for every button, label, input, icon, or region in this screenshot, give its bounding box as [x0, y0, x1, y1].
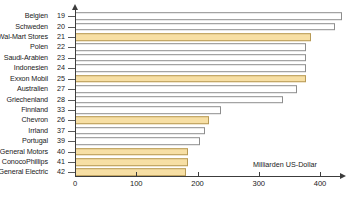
row-rank-number: 41: [52, 158, 65, 166]
x-axis-tick-label: 100: [116, 179, 156, 188]
row-rank-number: 33: [52, 106, 65, 114]
row-rank-number: 23: [52, 54, 65, 62]
value-bar: [75, 12, 342, 20]
x-axis-tick: [136, 172, 137, 177]
y-axis-tick: [68, 27, 75, 28]
row-category-label: Wal-Mart Stores: [0, 33, 48, 41]
row-rank-number: 21: [52, 33, 65, 41]
value-bar: [75, 117, 209, 125]
row-rank-number: 27: [52, 85, 65, 93]
chart-row: General Motors40: [0, 146, 354, 156]
value-bar: [75, 127, 205, 135]
row-category-label: Finnland: [21, 106, 48, 114]
y-axis-tick: [68, 120, 75, 121]
y-axis-tick: [68, 58, 75, 59]
x-axis-tick-label: 300: [239, 179, 279, 188]
value-bar: [75, 75, 306, 83]
chart-row: Saudi-Arabien23: [0, 53, 354, 63]
y-axis-line: [75, 8, 76, 176]
y-axis-tick: [68, 172, 75, 173]
x-axis-tick: [320, 172, 321, 177]
x-axis-tick-label: 0: [55, 179, 95, 188]
y-axis-tick: [68, 110, 75, 111]
chart-row: Polen22: [0, 42, 354, 52]
chart-row: Australien27: [0, 84, 354, 94]
chart-row: Finnland33: [0, 105, 354, 115]
y-axis-tick: [68, 89, 75, 90]
row-category-label: General Motors: [0, 148, 48, 156]
row-category-label: Exxon Mobil: [10, 75, 48, 83]
row-category-label: Irrland: [28, 127, 48, 135]
chart-row: Exxon Mobil25: [0, 74, 354, 84]
y-axis-tick: [68, 37, 75, 38]
row-category-label: Griechenland: [6, 96, 48, 104]
value-bar: [75, 96, 283, 104]
y-axis-arrow-icon: [72, 4, 78, 10]
x-axis-tick-label: 400: [300, 179, 340, 188]
row-rank-number: 40: [52, 148, 65, 156]
row-rank-number: 37: [52, 127, 65, 135]
chart-row: Wal-Mart Stores21: [0, 32, 354, 42]
value-bar: [75, 44, 306, 52]
value-bar: [75, 33, 311, 41]
row-category-label: ConocoPhillips: [2, 158, 48, 166]
chart-row: Irrland37: [0, 126, 354, 136]
row-category-label: Polen: [30, 43, 48, 51]
chart-row: Belgien19: [0, 11, 354, 21]
value-bar: [75, 23, 335, 31]
row-category-label: Saudi-Arabien: [4, 54, 48, 62]
row-category-label: Schweden: [15, 23, 48, 31]
row-category-label: Chevron: [22, 116, 48, 124]
row-rank-number: 28: [52, 96, 65, 104]
row-category-label: Indonesien: [14, 64, 48, 72]
x-axis-arrow-icon: [340, 173, 346, 179]
x-axis-tick: [198, 172, 199, 177]
value-bar: [75, 158, 188, 166]
value-bar: [75, 106, 221, 114]
row-rank-number: 19: [52, 12, 65, 20]
y-axis-tick: [68, 68, 75, 69]
chart-rows: Belgien19Schweden20Wal-Mart Stores21Pole…: [0, 0, 354, 176]
row-rank-number: 25: [52, 75, 65, 83]
y-axis-tick: [68, 47, 75, 48]
row-category-label: General Electric: [0, 168, 48, 176]
y-axis-tick: [68, 162, 75, 163]
row-rank-number: 24: [52, 64, 65, 72]
y-axis-tick: [68, 141, 75, 142]
row-rank-number: 26: [52, 116, 65, 124]
x-axis-title: Milliarden US-Dollar: [253, 161, 317, 169]
y-axis-tick: [68, 79, 75, 80]
chart-row: Chevron26: [0, 115, 354, 125]
y-axis-tick: [68, 16, 75, 17]
value-bar: [75, 137, 200, 145]
value-bar: [75, 148, 188, 156]
value-bar: [75, 85, 297, 93]
row-rank-number: 22: [52, 43, 65, 51]
row-rank-number: 39: [52, 137, 65, 145]
x-axis-tick-label: 200: [178, 179, 218, 188]
y-axis-tick: [68, 131, 75, 132]
y-axis-tick: [68, 100, 75, 101]
chart-row: Griechenland28: [0, 94, 354, 104]
chart-row: Indonesien24: [0, 63, 354, 73]
row-category-label: Australien: [17, 85, 48, 93]
row-category-label: Belgien: [25, 12, 48, 20]
value-bar: [75, 54, 306, 62]
row-rank-number: 42: [52, 168, 65, 176]
row-category-label: Portugal: [22, 137, 48, 145]
chart-row: Schweden20: [0, 21, 354, 31]
value-bar: [75, 64, 306, 72]
x-axis-line: [75, 176, 341, 177]
y-axis-tick: [68, 152, 75, 153]
chart-row: Portugal39: [0, 136, 354, 146]
bar-chart: Belgien19Schweden20Wal-Mart Stores21Pole…: [0, 0, 354, 202]
row-rank-number: 20: [52, 23, 65, 31]
x-axis-tick: [259, 172, 260, 177]
